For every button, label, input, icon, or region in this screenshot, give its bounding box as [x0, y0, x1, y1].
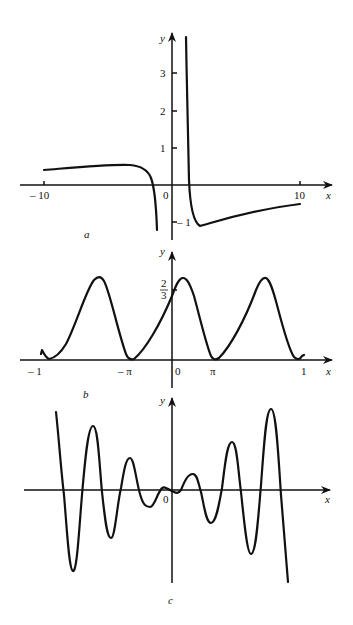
plot-b-x-label: x	[325, 365, 331, 377]
plot-a-y2-label: 2	[160, 105, 166, 117]
plot-b-zero-label: 0	[175, 365, 181, 377]
plot-b-xnegpi-label: – π	[117, 365, 132, 377]
plot-a-y3-label: 3	[160, 67, 166, 79]
plot-b-panel-label: b	[83, 388, 89, 400]
plot-a-x10-label: 10	[294, 189, 306, 201]
plot-a-y1-label: 1	[160, 142, 166, 154]
plot-c-zero-label: 0	[163, 493, 169, 505]
plot-b-xpos1-label: 1	[301, 365, 307, 377]
plot-a-panel-label: a	[84, 228, 90, 240]
plot-a-y-label: y	[159, 32, 165, 44]
plot-a: y 3 2 1 – 1 – 10 0 10 x a	[20, 32, 332, 240]
plot-a-right-branch	[186, 37, 300, 226]
plot-a-xneg10-label: – 10	[29, 189, 50, 201]
plot-b-y-den-label: 3	[161, 289, 167, 301]
plot-a-yneg1-label: – 1	[176, 216, 191, 228]
plot-b-y-num-label: 2	[161, 277, 167, 289]
plot-b-xpi-label: π	[210, 365, 216, 377]
figure: y 3 2 1 – 1 – 10 0 10 x a y 2 3 – 1 – π …	[0, 0, 353, 625]
plot-c-x-label: x	[324, 493, 330, 505]
plot-c-panel-label: c	[168, 594, 173, 606]
plot-b: y 2 3 – 1 – π 0 π 1 x b	[20, 245, 332, 400]
plot-a-zero-label: 0	[163, 189, 169, 201]
plot-b-xneg1-label: – 1	[27, 365, 42, 377]
plot-b-y-label: y	[159, 245, 165, 257]
plot-a-x-label: x	[325, 189, 331, 201]
plot-a-left-branch	[44, 165, 157, 230]
plot-c-y-label: y	[159, 394, 165, 406]
plot-c: y 0 x c	[24, 394, 330, 606]
